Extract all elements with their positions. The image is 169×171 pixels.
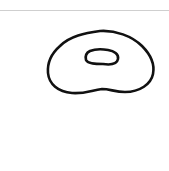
drawing-app <box>0 0 169 171</box>
drawing-canvas[interactable] <box>0 11 169 171</box>
donut-inner-hole[interactable] <box>86 49 118 64</box>
donut-outer-ring[interactable] <box>48 31 154 93</box>
donut-drawing <box>0 0 169 171</box>
